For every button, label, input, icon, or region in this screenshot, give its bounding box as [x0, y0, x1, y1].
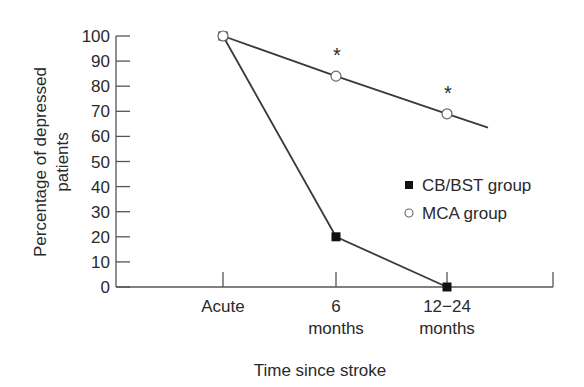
y-tick-label: 10 — [91, 253, 110, 272]
data-point-circle — [331, 71, 341, 81]
y-axis-title: patients — [53, 132, 72, 192]
legend-marker-circle — [405, 209, 413, 217]
data-point-square — [443, 283, 452, 292]
line-chart: 0102030405060708090100Acute6months12−24m… — [0, 0, 584, 387]
x-tick-label: months — [419, 319, 475, 338]
legend-marker-square — [405, 181, 413, 189]
y-tick-label: 30 — [91, 203, 110, 222]
x-tick-label: Acute — [201, 297, 244, 316]
y-tick-label: 100 — [82, 27, 110, 46]
legend-label: MCA group — [422, 204, 507, 223]
x-tick-label: 6 — [331, 297, 340, 316]
y-tick-label: 50 — [91, 153, 110, 172]
data-point-circle — [218, 31, 228, 41]
x-tick-label: 12−24 — [423, 297, 471, 316]
legend-label: CB/BST group — [422, 176, 531, 195]
y-tick-label: 40 — [91, 178, 110, 197]
significance-asterisk: * — [333, 44, 341, 66]
y-tick-label: 80 — [91, 77, 110, 96]
significance-asterisk: * — [444, 82, 452, 104]
x-axis-title: Time since stroke — [254, 361, 387, 380]
data-point-circle — [442, 109, 452, 119]
data-point-square — [332, 232, 341, 241]
y-axis-title: Percentage of depressed — [31, 67, 50, 257]
y-tick-label: 0 — [101, 278, 110, 297]
y-tick-label: 20 — [91, 228, 110, 247]
y-tick-label: 60 — [91, 127, 110, 146]
y-tick-label: 70 — [91, 102, 110, 121]
y-tick-label: 90 — [91, 52, 110, 71]
x-tick-label: months — [308, 319, 364, 338]
